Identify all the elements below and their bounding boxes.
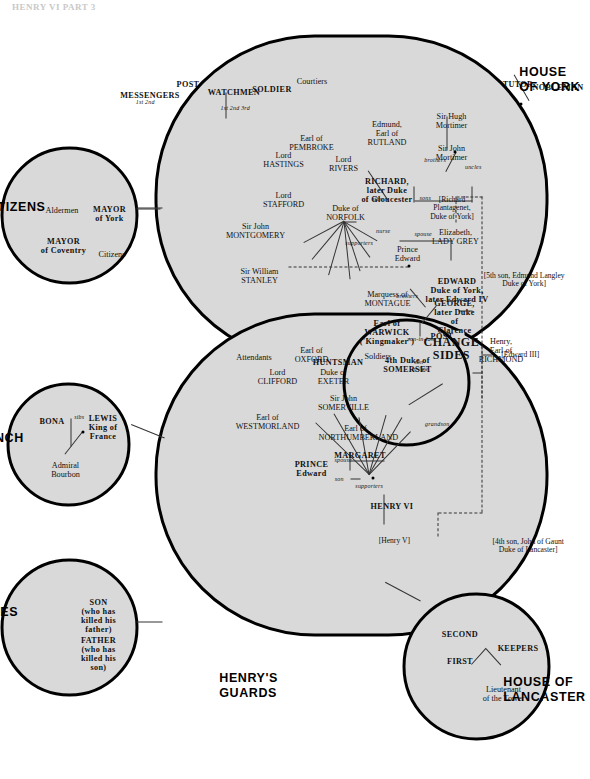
york-lord-rivers: Lord RIVERS bbox=[319, 155, 367, 173]
lanc-earl-northumberland: Earl of NORTHUMBERLAND bbox=[318, 424, 392, 442]
york-rel-spouse: spouse bbox=[407, 231, 439, 238]
york-sir-john-montgomery: Sir John MONTGOMERY bbox=[218, 222, 292, 240]
york-rel-supporters: supporters bbox=[338, 240, 380, 247]
york-internal-dot bbox=[407, 264, 410, 267]
caption-french-court: THE FRENCH COURT bbox=[0, 431, 53, 462]
york-messengers-count: 1st 2nd bbox=[125, 99, 165, 106]
lanc-rel-son: son bbox=[328, 476, 350, 483]
lanc-post: POST bbox=[421, 331, 461, 340]
casualties-father: FATHER (who has killed his son) bbox=[70, 636, 126, 672]
york-sir-hugh-mortimer: Sir Hugh Mortimer bbox=[422, 112, 480, 130]
change-rel-brothers: brothers bbox=[389, 293, 425, 300]
citizens-mayor-coventry: MAYOR of Coventry bbox=[33, 237, 93, 255]
guards-second: SECOND bbox=[431, 629, 487, 638]
lanc-earl-westmorland: Earl of WESTMORLAND bbox=[231, 413, 303, 431]
lanc-rel-son-in-law: son- in-law bbox=[404, 358, 434, 371]
caption-casualties-of-war: CASUALTIES OF WAR bbox=[0, 605, 53, 636]
york-richard-gloucester: RICHARD, later Duke of Gloucester bbox=[344, 176, 428, 203]
ancestry-dash-lanc-drop bbox=[438, 512, 482, 513]
york-duke-of-norfolk: Duke of NORFOLK bbox=[320, 204, 370, 222]
york-lord-stafford: Lord STAFFORD bbox=[259, 191, 307, 209]
connector-citizens-line bbox=[136, 207, 162, 208]
french-rel-sibs: sibs bbox=[66, 414, 92, 421]
york-internal-dash bbox=[288, 266, 408, 267]
lanc-rel-grandson: grandson bbox=[417, 421, 457, 428]
connector-casualties-line bbox=[136, 621, 162, 622]
tutor-dot bbox=[519, 102, 522, 105]
caption-house-of-lancaster: HOUSE OF LANCASTER bbox=[503, 675, 590, 706]
york-prince-edward: Prince Edward bbox=[383, 245, 431, 263]
caption-english-citizens: ENGLISH CITIZENS bbox=[0, 199, 69, 214]
change-george-clarence: GEORGE, later Duke of Clarence bbox=[417, 299, 491, 335]
lanc-earl-oxford: Earl of OXFORD bbox=[286, 346, 336, 364]
lanc-henry-richmond: Henry, Earl of RICHMOND bbox=[472, 336, 528, 363]
lanc-henry-v: [Henry V] bbox=[371, 537, 417, 545]
lanc-lord-clifford: Lord CLIFFORD bbox=[252, 368, 302, 386]
page-header: HENRY VI PART 3 bbox=[12, 2, 96, 12]
york-sir-william-stanley: Sir William STANLEY bbox=[225, 267, 293, 285]
york-watchmen: WATCHMEN bbox=[201, 87, 265, 96]
york-lord-hastings: Lord HASTINGS bbox=[259, 151, 307, 169]
lanc-duke-exeter: Duke of EXETER bbox=[306, 368, 360, 386]
lanc-sir-john-somerville: Sir John SOMERVILLE bbox=[312, 394, 374, 412]
lanc-richmond-stem bbox=[472, 372, 482, 373]
york-rel-nurse: nurse bbox=[368, 228, 398, 235]
york-edmund-rutland: Edmund, Earl of RUTLAND bbox=[353, 119, 419, 146]
york-watchmen-count: 1st 2nd 3rd bbox=[207, 105, 263, 112]
caption-henrys-guards: HENRY'S GUARDS bbox=[219, 671, 319, 702]
citizens-mayor-york: MAYOR of York bbox=[83, 205, 135, 223]
casualties-son: SON (who has killed his father) bbox=[70, 598, 126, 634]
lanc-attendants: Attendants bbox=[224, 352, 282, 361]
lanc-rel-spouse: spouse bbox=[327, 457, 359, 464]
lanc-son-stem bbox=[350, 478, 360, 479]
french-admiral-dot bbox=[81, 430, 84, 433]
lanc-soldiers: Soldiers bbox=[353, 351, 401, 360]
lanc-rel-supporters: supporters bbox=[347, 483, 391, 490]
guards-keepers: KEEPERS bbox=[487, 643, 547, 652]
french-admiral-bourbon: Admiral Bourbon bbox=[37, 461, 93, 479]
lanc-supporters-dot bbox=[371, 476, 374, 479]
caption-house-of-york: HOUSE OF YORK bbox=[519, 65, 590, 96]
guards-first: FIRST bbox=[436, 656, 482, 665]
york-uncle-dot bbox=[453, 150, 456, 153]
york-rel-brothers: brothers bbox=[420, 157, 450, 164]
york-messengers: MESSENGERS bbox=[110, 90, 188, 99]
ancestry-dash-lanc-arm bbox=[437, 512, 438, 536]
york-post: POST bbox=[167, 79, 207, 88]
york-rel-uncles: uncles bbox=[456, 164, 490, 171]
ancestry-lancaster-label: [4th son, John of Gaunt Duke of Lancaste… bbox=[458, 538, 590, 555]
lanc-henry-vi: HENRY VI bbox=[365, 501, 417, 510]
york-earl-of-pembroke: Earl of PEMBROKE bbox=[286, 134, 336, 152]
